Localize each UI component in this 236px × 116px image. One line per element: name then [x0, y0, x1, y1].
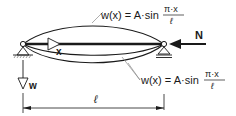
- dimension-arrow-left-icon: [23, 106, 31, 110]
- w-axis-label: w: [28, 80, 37, 91]
- right-pin-joint: [161, 41, 166, 46]
- force-arrow-head-icon: [169, 39, 181, 49]
- lower-formula-denominator: ℓ: [210, 81, 214, 91]
- upper-formula: w(x) = A·sin π·x ℓ: [100, 4, 184, 26]
- lower-formula-leader-2: [128, 63, 140, 80]
- lower-sine-curve-2: [23, 44, 164, 63]
- buckling-diagram: x N w ℓ w(x) = A·sin π·x ℓ w(x) = A·sin: [0, 0, 236, 116]
- right-support-triangle: [158, 47, 170, 54]
- lower-formula-numerator: π·x: [205, 69, 219, 79]
- upper-sine-curve: [23, 26, 164, 44]
- force-label: N: [195, 29, 203, 41]
- lower-sine-curve-1: [23, 44, 164, 55]
- span-label: ℓ: [93, 93, 98, 105]
- left-pin-joint: [20, 41, 25, 46]
- lower-formula: w(x) = A·sin π·x ℓ: [140, 69, 225, 91]
- upper-formula-lhs: w(x) = A·sin: [100, 9, 159, 21]
- upper-formula-denominator: ℓ: [169, 16, 173, 26]
- w-axis-arrow-icon: [18, 78, 28, 89]
- x-axis-label: x: [56, 46, 62, 57]
- lower-formula-lhs: w(x) = A·sin: [140, 74, 199, 86]
- upper-formula-numerator: π·x: [164, 4, 178, 14]
- dimension-arrow-right-icon: [156, 106, 164, 110]
